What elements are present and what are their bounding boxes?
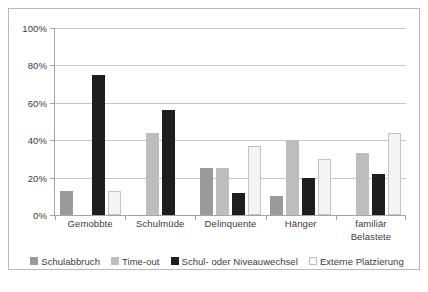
x-category-label: Hänger bbox=[266, 218, 336, 243]
x-axis-labels: Gemobbte Schulmüde Delinquente Hänger fa… bbox=[55, 218, 406, 243]
legend-swatch-icon bbox=[171, 257, 179, 265]
legend-item-schulabbruch[interactable]: Schulabbruch bbox=[30, 256, 100, 267]
x-category-line2: Belastete bbox=[336, 231, 406, 244]
chart-legend: Schulabbruch Time-out Schul- oder Niveau… bbox=[23, 254, 411, 268]
y-tick-label-0: 0% bbox=[33, 210, 47, 221]
bar-slot bbox=[286, 28, 299, 215]
legend-label: Externe Platzierung bbox=[320, 256, 404, 267]
gridline-0 bbox=[55, 215, 406, 216]
bar[interactable] bbox=[286, 140, 299, 215]
legend-item-schul-oder-niveauwechsel[interactable]: Schul- oder Niveauwechsel bbox=[171, 256, 298, 267]
y-tick-label-40: 40% bbox=[28, 135, 47, 146]
bar[interactable] bbox=[60, 191, 73, 215]
bar-slot bbox=[340, 28, 353, 215]
x-category-label: Schulmüde bbox=[125, 218, 195, 243]
bar-slot bbox=[216, 28, 229, 215]
bar-slot bbox=[200, 28, 213, 215]
bar[interactable] bbox=[92, 75, 105, 215]
y-tick-label-20: 20% bbox=[28, 172, 47, 183]
x-category-label: Gemobbte bbox=[55, 218, 125, 243]
plot-area bbox=[55, 28, 406, 215]
bar-slot bbox=[92, 28, 105, 215]
bar[interactable] bbox=[162, 110, 175, 215]
bar-slot bbox=[178, 28, 191, 215]
bar[interactable] bbox=[232, 193, 245, 215]
bar-slot bbox=[388, 28, 401, 215]
y-axis-labels: 100% 80% 60% 40% 20% 0% bbox=[9, 28, 50, 215]
bar[interactable] bbox=[270, 196, 283, 215]
bar-slot bbox=[248, 28, 261, 215]
bar-slot bbox=[270, 28, 283, 215]
bars-layer bbox=[55, 28, 406, 215]
bar[interactable] bbox=[216, 168, 229, 215]
legend-label: Time-out bbox=[122, 256, 160, 267]
bar-slot bbox=[318, 28, 331, 215]
bar-chart-figure: 100% 80% 60% 40% 20% 0% Gemobbte S bbox=[8, 8, 420, 270]
legend-swatch-icon bbox=[30, 257, 38, 265]
x-category-label: familiär Belastete bbox=[336, 218, 406, 243]
legend-label: Schul- oder Niveauwechsel bbox=[182, 256, 298, 267]
x-category-line1: Hänger bbox=[266, 218, 336, 231]
bar[interactable] bbox=[200, 168, 213, 215]
bar[interactable] bbox=[248, 146, 261, 215]
bar-slot bbox=[356, 28, 369, 215]
bar[interactable] bbox=[388, 133, 401, 215]
y-tick-label-80: 80% bbox=[28, 60, 47, 71]
legend-label: Schulabbruch bbox=[41, 256, 100, 267]
bar[interactable] bbox=[302, 178, 315, 215]
x-category-line1: familiär bbox=[336, 218, 406, 231]
bar-slot bbox=[162, 28, 175, 215]
bar[interactable] bbox=[356, 153, 369, 215]
bar-slot bbox=[130, 28, 143, 215]
bar[interactable] bbox=[318, 159, 331, 215]
legend-swatch-icon bbox=[111, 257, 119, 265]
bar[interactable] bbox=[108, 191, 121, 215]
x-category-line1: Delinquente bbox=[195, 218, 265, 231]
bar-slot bbox=[232, 28, 245, 215]
legend-item-externe-platzierung[interactable]: Externe Platzierung bbox=[309, 256, 404, 267]
bar-slot bbox=[146, 28, 159, 215]
bar-slot bbox=[60, 28, 73, 215]
x-category-line1: Schulmüde bbox=[125, 218, 195, 231]
bar-group bbox=[125, 28, 195, 215]
x-category-label: Delinquente bbox=[195, 218, 265, 243]
bar-group bbox=[55, 28, 125, 215]
bar-slot bbox=[372, 28, 385, 215]
legend-item-time-out[interactable]: Time-out bbox=[111, 256, 160, 267]
bar-slot bbox=[76, 28, 89, 215]
bar[interactable] bbox=[146, 133, 159, 215]
bar-slot bbox=[302, 28, 315, 215]
y-tick-label-100: 100% bbox=[22, 23, 47, 34]
bar[interactable] bbox=[372, 174, 385, 215]
x-category-line1: Gemobbte bbox=[55, 218, 125, 231]
bar-slot bbox=[108, 28, 121, 215]
bar-group bbox=[336, 28, 406, 215]
bar-group bbox=[266, 28, 336, 215]
bar-group bbox=[195, 28, 265, 215]
legend-swatch-icon bbox=[309, 257, 317, 265]
y-tick-label-60: 60% bbox=[28, 97, 47, 108]
